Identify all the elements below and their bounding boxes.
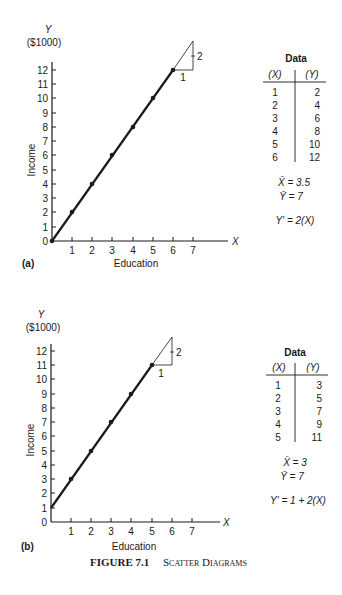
svg-text:5: 5 bbox=[41, 446, 47, 457]
svg-text:7: 7 bbox=[190, 245, 196, 256]
table-header-x: (X) bbox=[268, 69, 281, 80]
svg-text:1: 1 bbox=[69, 245, 75, 256]
svg-text:12: 12 bbox=[36, 346, 48, 357]
svg-text:11: 11 bbox=[312, 432, 323, 443]
svg-text:7: 7 bbox=[41, 417, 47, 428]
data-table: Data (X) (Y) 1 2 2 4 3 6 4 8 5 10 6 12 bbox=[263, 53, 326, 163]
y-mean: Ȳ = 7 bbox=[280, 471, 304, 482]
svg-text:5: 5 bbox=[42, 165, 48, 176]
x-axis-symbol: X bbox=[222, 517, 230, 528]
svg-text:6: 6 bbox=[314, 113, 320, 124]
svg-text:3: 3 bbox=[316, 380, 322, 391]
x-mean: X̄ = 3.5 bbox=[277, 176, 310, 188]
x-tick-labels: 1 2 3 4 5 6 7 bbox=[68, 526, 195, 537]
y-axis-label: Income bbox=[25, 423, 36, 456]
caption-number: FIGURE 7.1 bbox=[90, 556, 149, 568]
x-axis-label: Education bbox=[114, 258, 158, 269]
slope-rise-label: 2 bbox=[197, 51, 203, 62]
chart-b: Y ($1000) X 0 1 2 3 4 5 6 7 8 9 10 11 12 bbox=[21, 309, 328, 552]
svg-text:3: 3 bbox=[42, 193, 48, 204]
svg-text:1: 1 bbox=[41, 503, 47, 514]
regression-equation: Y′ = 1 + 2(X) bbox=[270, 495, 326, 506]
svg-text:1: 1 bbox=[275, 380, 281, 391]
svg-text:3: 3 bbox=[109, 245, 115, 256]
svg-text:2: 2 bbox=[42, 207, 48, 218]
svg-text:5: 5 bbox=[316, 393, 322, 404]
panel-label: (a) bbox=[22, 258, 34, 269]
svg-text:11: 11 bbox=[38, 79, 49, 90]
svg-text:9: 9 bbox=[41, 389, 47, 400]
svg-text:9: 9 bbox=[316, 419, 322, 430]
svg-text:5: 5 bbox=[150, 245, 156, 256]
svg-text:10: 10 bbox=[37, 93, 49, 104]
svg-text:4: 4 bbox=[128, 526, 134, 537]
svg-text:2: 2 bbox=[275, 393, 281, 404]
svg-text:4: 4 bbox=[275, 419, 281, 430]
svg-text:2: 2 bbox=[272, 100, 278, 111]
svg-text:8: 8 bbox=[42, 122, 48, 133]
svg-text:7: 7 bbox=[189, 526, 195, 537]
svg-text:7: 7 bbox=[42, 136, 48, 147]
y-axis-label: Income bbox=[26, 143, 37, 176]
svg-text:5: 5 bbox=[275, 432, 281, 443]
svg-text:5: 5 bbox=[272, 139, 278, 150]
svg-text:1: 1 bbox=[272, 87, 278, 98]
svg-text:7: 7 bbox=[316, 406, 322, 417]
svg-text:4: 4 bbox=[314, 100, 320, 111]
caption-title: Scatter Diagrams bbox=[163, 556, 247, 568]
y-tick-labels: 0 1 2 3 4 5 6 7 8 9 10 11 12 bbox=[36, 346, 48, 528]
slope-triangle bbox=[173, 41, 195, 70]
x-mean: X̄ = 3 bbox=[282, 456, 307, 468]
slope-rise-label: 2 bbox=[176, 347, 182, 358]
svg-text:10: 10 bbox=[309, 139, 321, 150]
x-axis-label: Education bbox=[112, 541, 156, 552]
svg-text:4: 4 bbox=[272, 126, 278, 137]
svg-text:6: 6 bbox=[272, 152, 278, 163]
x-axis-symbol: X bbox=[231, 236, 239, 247]
y-axis-symbol: Y bbox=[45, 24, 53, 35]
svg-text:2: 2 bbox=[41, 488, 47, 499]
slope-triangle bbox=[152, 337, 174, 365]
svg-text:8: 8 bbox=[314, 126, 320, 137]
regression-line bbox=[51, 365, 152, 508]
svg-text:4: 4 bbox=[130, 245, 136, 256]
svg-text:3: 3 bbox=[41, 474, 47, 485]
table-header-x: (X) bbox=[272, 362, 285, 373]
svg-text:1: 1 bbox=[68, 526, 74, 537]
svg-text:3: 3 bbox=[272, 113, 278, 124]
table-header-y: (Y) bbox=[306, 362, 319, 373]
y-axis-unit: ($1000) bbox=[26, 322, 60, 333]
y-mean: Ȳ = 7 bbox=[279, 191, 303, 202]
svg-text:2: 2 bbox=[88, 526, 94, 537]
svg-text:9: 9 bbox=[42, 108, 48, 119]
table-title: Data bbox=[284, 347, 306, 358]
y-axis-symbol: Y bbox=[38, 309, 46, 320]
figure-canvas: Y ($1000) X 0 1 2 3 4 5 6 7 8 9 10 11 bbox=[0, 0, 342, 595]
table-title: Data bbox=[285, 53, 307, 64]
svg-text:5: 5 bbox=[149, 526, 155, 537]
svg-text:6: 6 bbox=[41, 431, 47, 442]
svg-text:0: 0 bbox=[42, 236, 48, 247]
svg-text:3: 3 bbox=[275, 406, 281, 417]
table-header-y: (Y) bbox=[305, 69, 318, 80]
slope-run-label: 1 bbox=[158, 368, 164, 379]
x-tick-labels: 1 2 3 4 5 6 7 bbox=[69, 245, 196, 256]
svg-text:10: 10 bbox=[36, 374, 48, 385]
svg-text:6: 6 bbox=[169, 526, 175, 537]
svg-text:2: 2 bbox=[89, 245, 95, 256]
svg-text:3: 3 bbox=[108, 526, 114, 537]
svg-text:8: 8 bbox=[41, 403, 47, 414]
svg-text:0: 0 bbox=[41, 517, 47, 528]
slope-run-label: 1 bbox=[180, 72, 186, 83]
y-tick-labels: 0 1 2 3 4 5 6 7 8 9 10 11 12 bbox=[37, 65, 49, 247]
panel-label: (b) bbox=[21, 541, 34, 552]
svg-text:4: 4 bbox=[41, 460, 47, 471]
regression-equation: Y′ = 2(X) bbox=[276, 215, 315, 226]
svg-text:4: 4 bbox=[42, 179, 48, 190]
y-axis-unit: ($1000) bbox=[27, 37, 61, 48]
svg-text:2: 2 bbox=[314, 87, 320, 98]
svg-text:11: 11 bbox=[37, 360, 48, 371]
chart-a: Y ($1000) X 0 1 2 3 4 5 6 7 8 9 10 11 bbox=[22, 24, 326, 269]
figure-caption: FIGURE 7.1 Scatter Diagrams bbox=[90, 556, 247, 568]
svg-text:6: 6 bbox=[42, 150, 48, 161]
